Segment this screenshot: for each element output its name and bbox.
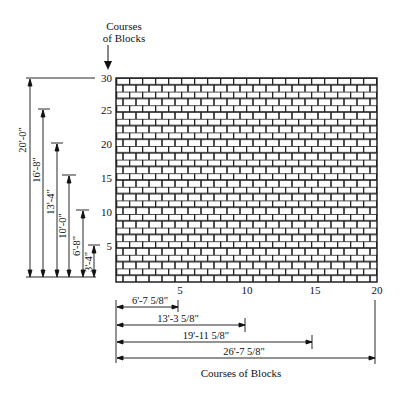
block-wall-diagram: Courses of Blocks 30 25 20 15 10 5	[0, 0, 404, 399]
vertical-axis-ticks: 30 25 20 15 10 5	[101, 72, 113, 252]
svg-text:26'-7 5/8": 26'-7 5/8"	[223, 346, 264, 357]
svg-text:5: 5	[177, 284, 183, 296]
svg-text:10: 10	[242, 284, 254, 296]
svg-text:6'-8": 6'-8"	[71, 236, 82, 256]
top-label-line1: Courses	[106, 20, 141, 32]
svg-text:13'-4": 13'-4"	[45, 189, 56, 214]
svg-text:30: 30	[101, 72, 113, 84]
down-arrow-icon	[104, 45, 112, 70]
svg-text:16'-8": 16'-8"	[31, 157, 42, 182]
svg-text:3'-4": 3'-4"	[83, 252, 94, 272]
horizontal-axis-ticks: 5 10 15 20	[177, 284, 383, 296]
svg-text:20'-0": 20'-0"	[17, 127, 28, 152]
svg-text:19'-11 5/8": 19'-11 5/8"	[183, 330, 229, 341]
top-label-line2: of Blocks	[103, 32, 145, 44]
svg-text:6'-7 5/8": 6'-7 5/8"	[132, 295, 168, 306]
svg-text:25: 25	[101, 104, 113, 116]
svg-text:15: 15	[101, 172, 113, 184]
block-wall	[116, 78, 377, 282]
svg-text:10: 10	[101, 206, 113, 218]
svg-text:20: 20	[101, 138, 113, 150]
svg-text:13'-3 5/8": 13'-3 5/8"	[157, 313, 198, 324]
svg-text:5: 5	[107, 240, 113, 252]
bottom-label: Courses of Blocks	[201, 367, 282, 379]
svg-text:20: 20	[372, 284, 384, 296]
svg-text:15: 15	[310, 284, 322, 296]
svg-text:10'-0": 10'-0"	[57, 213, 68, 238]
